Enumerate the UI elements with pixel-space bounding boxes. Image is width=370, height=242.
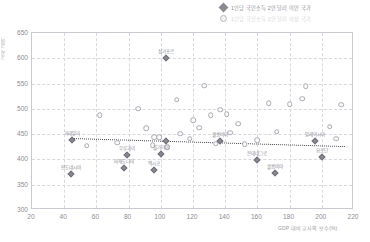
data-point-diamond[interactable] xyxy=(157,150,164,157)
data-point-circle[interactable] xyxy=(327,124,333,130)
x-axis-tick-label: 140 xyxy=(209,213,239,220)
data-point-label: 인도네시아 xyxy=(61,164,81,170)
x-axis-tick-label: 180 xyxy=(274,213,304,220)
x-axis-tick-label: 120 xyxy=(177,213,207,220)
data-point-circle[interactable] xyxy=(144,125,150,131)
x-axis-tick-label: 200 xyxy=(306,213,336,220)
x-axis-title: GDP 대비 교사의 보수(%) xyxy=(278,224,337,231)
gridline-horizontal xyxy=(32,58,352,59)
data-point-circle[interactable] xyxy=(274,129,280,135)
data-point-diamond[interactable] xyxy=(272,169,279,176)
data-point-circle[interactable] xyxy=(156,134,162,140)
gridline-horizontal xyxy=(32,185,352,186)
trendline xyxy=(71,138,345,147)
data-point-label: 마케도니아 xyxy=(114,158,134,164)
diamond-marker-icon xyxy=(219,3,229,13)
y-axis-tick-label: 500 xyxy=(6,104,28,111)
x-axis-tick-label: 20 xyxy=(16,213,46,220)
data-point-circle[interactable] xyxy=(201,83,207,89)
data-point-diamond[interactable] xyxy=(120,164,127,171)
data-point-circle[interactable] xyxy=(177,131,183,137)
data-point-circle[interactable] xyxy=(197,125,203,131)
plot-area: 싱가포르과테말라인도네시아우루과이마케도니아불가리아멕시코콜롬비아몬테네그로콜롬… xyxy=(31,32,353,209)
x-axis-tick-label: 220 xyxy=(338,213,368,220)
data-point-circle[interactable] xyxy=(224,111,230,117)
data-point-circle[interactable] xyxy=(300,96,306,102)
y-axis-tick-label: 300 xyxy=(6,206,28,213)
data-point-circle[interactable] xyxy=(255,137,261,143)
data-point-label: 콜롬비아 xyxy=(267,163,283,169)
legend-item-low-income[interactable]: 1인당 국민소득 2만 달러 미만 국가 xyxy=(216,2,366,13)
data-point-diamond[interactable] xyxy=(151,167,158,174)
y-axis-tick-label: 350 xyxy=(6,180,28,187)
data-point-circle[interactable] xyxy=(208,112,214,118)
data-point-circle[interactable] xyxy=(84,143,90,149)
data-point-label: 말레이시아 xyxy=(305,131,325,137)
x-axis-tick-label: 160 xyxy=(241,213,271,220)
data-point-label: 몬테네그로 xyxy=(247,150,267,156)
data-point-circle[interactable] xyxy=(190,118,196,124)
data-point-circle[interactable] xyxy=(333,136,339,142)
y-axis-tick-label: 600 xyxy=(6,54,28,61)
data-point-label: 멕시코 xyxy=(148,160,160,166)
circle-marker-icon xyxy=(220,15,227,22)
x-axis-tick-label: 40 xyxy=(48,213,78,220)
data-point-label: 요르단 xyxy=(316,147,328,153)
data-point-circle[interactable] xyxy=(174,97,180,103)
data-point-circle[interactable] xyxy=(242,141,248,147)
y-axis-tick-label: 550 xyxy=(6,79,28,86)
data-point-circle[interactable] xyxy=(235,121,241,127)
gridline-horizontal xyxy=(32,159,352,160)
data-point-circle[interactable] xyxy=(187,136,193,142)
y-axis-tick-label: 650 xyxy=(6,29,28,36)
y-axis-tick-label: 450 xyxy=(6,130,28,137)
data-point-circle[interactable] xyxy=(97,113,103,119)
data-point-diamond[interactable] xyxy=(162,54,169,61)
data-point-label: 콜롬비아 xyxy=(212,131,228,137)
scatter-chart: 1인당 국민소득 2만 달러 미만 국가 1인당 국민소득 2만 달러 이상 국… xyxy=(0,0,370,242)
legend-label-low-income: 1인당 국민소득 2만 달러 미만 국가 xyxy=(231,4,311,11)
data-point-circle[interactable] xyxy=(218,107,224,113)
data-point-label: 불가리아 xyxy=(153,144,169,150)
legend-label-high-income: 1인당 국민소득 2만 달러 이상 국가 xyxy=(231,15,311,22)
data-point-circle[interactable] xyxy=(338,102,344,108)
chart-legend: 1인당 국민소득 2만 달러 미만 국가 1인당 국민소득 2만 달러 이상 국… xyxy=(216,2,366,24)
data-point-diamond[interactable] xyxy=(254,156,261,163)
gridline-horizontal xyxy=(32,109,352,110)
data-point-circle[interactable] xyxy=(266,100,272,106)
data-point-circle[interactable] xyxy=(287,102,293,108)
data-point-circle[interactable] xyxy=(303,83,309,89)
x-axis-tick-label: 100 xyxy=(145,213,175,220)
x-axis-tick-label: 80 xyxy=(113,213,143,220)
data-point-circle[interactable] xyxy=(135,106,141,112)
data-point-label: 과테말라 xyxy=(64,130,80,136)
y-axis-tick-label: 400 xyxy=(6,155,28,162)
data-point-label: 우루과이 xyxy=(119,145,135,151)
legend-item-high-income[interactable]: 1인당 국민소득 2만 달러 이상 국가 xyxy=(216,13,366,24)
data-point-diamond[interactable] xyxy=(67,171,74,178)
data-point-diamond[interactable] xyxy=(312,137,319,144)
data-point-label: 싱가포르 xyxy=(158,48,174,54)
x-axis-tick-label: 60 xyxy=(80,213,110,220)
